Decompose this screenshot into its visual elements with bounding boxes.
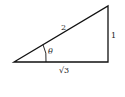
adjacent-label: √3 [59, 66, 69, 75]
opposite-label: 1 [111, 31, 116, 40]
triangle-diagram: 2 1 θ √3 [0, 0, 125, 97]
angle-arc [43, 45, 46, 62]
angle-label: θ [48, 47, 53, 56]
hypotenuse-label: 2 [61, 23, 66, 32]
right-triangle [14, 6, 108, 62]
